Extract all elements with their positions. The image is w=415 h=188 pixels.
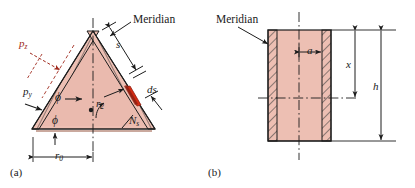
ds-label: ds bbox=[147, 84, 157, 95]
pz-subscript: z bbox=[25, 42, 28, 51]
figure-container: Meridian s ds pz py ϕ ϕ r2 Ns r0 (a) Mer… bbox=[0, 0, 415, 188]
s-label: s bbox=[116, 39, 120, 50]
ds-tick-top bbox=[133, 71, 146, 78]
ns-label: Ns bbox=[129, 115, 139, 128]
r0-label: r0 bbox=[55, 150, 63, 163]
panel-a-caption: (a) bbox=[10, 167, 22, 178]
s-tick-top bbox=[102, 22, 116, 30]
phi-lower-label: ϕ bbox=[52, 115, 58, 127]
pz-label: pz bbox=[19, 38, 27, 51]
ns-subscript: s bbox=[136, 119, 139, 128]
panel-a-cone bbox=[25, 18, 162, 162]
cone-body-shade bbox=[39, 36, 148, 126]
x-label: x bbox=[346, 59, 351, 70]
meridian-leader-b bbox=[238, 27, 268, 44]
cylinder-right-wall-hatch bbox=[322, 30, 331, 141]
r2-label: r2 bbox=[96, 98, 104, 111]
r0-subscript: 0 bbox=[59, 154, 63, 163]
py-subscript: y bbox=[29, 90, 32, 99]
panel-b-caption: (b) bbox=[208, 167, 221, 178]
cylinder-left-wall-hatch bbox=[268, 30, 277, 141]
pz-arrow bbox=[30, 53, 60, 70]
r2-subscript: 2 bbox=[100, 102, 104, 111]
a-label: a bbox=[307, 45, 313, 56]
py-label: py bbox=[23, 86, 32, 99]
phi-upper-label: ϕ bbox=[55, 92, 61, 104]
r2-origin-dot bbox=[89, 108, 93, 112]
meridian-label-a: Meridian bbox=[133, 14, 175, 26]
pz-guide-line bbox=[27, 54, 42, 79]
ds-leader-arrow bbox=[151, 96, 162, 110]
meridian-label-b: Meridian bbox=[216, 14, 258, 26]
py-arrow bbox=[25, 104, 42, 110]
h-label: h bbox=[373, 81, 379, 92]
